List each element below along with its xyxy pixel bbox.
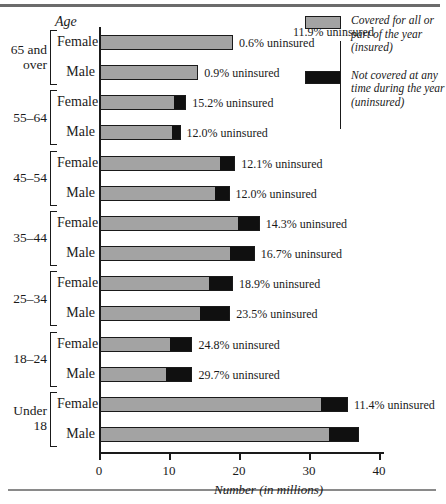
bar-segment-insured xyxy=(101,338,170,351)
bar-segment-insured xyxy=(101,36,232,49)
age-group-label: 35–44 xyxy=(0,230,47,245)
row-label-female: Female xyxy=(57,94,95,110)
bar-35–44-male xyxy=(100,246,255,261)
row-label-female: Female xyxy=(57,215,95,231)
bar-25–34-female xyxy=(100,276,233,291)
row-label-male: Male xyxy=(57,185,95,201)
row-label-male: Male xyxy=(57,64,95,80)
callout-label: 11.9% uninsured xyxy=(293,25,374,40)
bar-value-label: 12.1% uninsured xyxy=(241,157,322,172)
bar-value-label: 24.8% uninsured xyxy=(198,338,279,353)
age-group-bracket xyxy=(50,211,57,266)
bar-65-and-over-female xyxy=(100,35,233,50)
age-group-bracket xyxy=(50,271,57,326)
age-group-bracket xyxy=(50,392,57,447)
plot-area: 010203040 0.6% uninsured0.9% uninsured15… xyxy=(99,27,384,454)
bar-45–54-female xyxy=(100,156,235,171)
row-label-female: Female xyxy=(57,34,95,50)
bar-55–64-male xyxy=(100,125,181,140)
bar-segment-insured xyxy=(101,157,220,170)
insurance-coverage-bar-chart: Age Covered for all or part of the year … xyxy=(0,0,446,504)
row-label-male: Male xyxy=(57,426,95,442)
age-group-bracket xyxy=(50,332,57,387)
bar-segment-insured xyxy=(101,247,230,260)
row-label-female: Female xyxy=(57,336,95,352)
bar-segment-uninsured xyxy=(329,428,358,441)
bar-segment-uninsured xyxy=(321,398,347,411)
bar-segment-uninsured xyxy=(209,277,232,290)
bar-segment-insured xyxy=(101,368,166,381)
row-label-male: Male xyxy=(57,124,95,140)
row-label-male: Male xyxy=(57,366,95,382)
age-group-label-line2: over xyxy=(0,57,47,72)
x-tick-40 xyxy=(379,454,381,460)
row-label-female: Female xyxy=(57,155,95,171)
bar-segment-uninsured xyxy=(200,307,229,320)
y-axis-line xyxy=(99,27,101,454)
bar-segment-uninsured xyxy=(230,247,254,260)
age-group-label-line2: 18 xyxy=(0,418,47,433)
bar-segment-insured xyxy=(101,398,321,411)
x-tick-label-10: 10 xyxy=(163,463,176,479)
bar-segment-insured xyxy=(101,217,238,230)
bar-value-label: 16.7% uninsured xyxy=(261,247,342,262)
age-group-label: Under18 xyxy=(0,403,47,433)
age-group-bracket xyxy=(50,30,57,85)
bar-value-label: 12.0% uninsured xyxy=(187,126,268,141)
bar-value-label: 29.7% uninsured xyxy=(198,368,279,383)
x-tick-label-40: 40 xyxy=(373,463,386,479)
age-group-label: 45–54 xyxy=(0,170,47,185)
bar-value-label: 0.9% uninsured xyxy=(204,66,279,81)
bar-value-label: 14.3% uninsured xyxy=(266,217,347,232)
age-group-label: 65 andover xyxy=(0,42,47,72)
bar-Under-18-female xyxy=(100,397,348,412)
bar-segment-uninsured xyxy=(166,368,191,381)
x-tick-label-30: 30 xyxy=(303,463,316,479)
bar-segment-uninsured xyxy=(174,96,185,109)
bar-25–34-male xyxy=(100,306,230,321)
bar-value-label: 18.9% uninsured xyxy=(239,277,320,292)
age-group-label: 55–64 xyxy=(0,110,47,125)
x-tick-30 xyxy=(309,454,311,460)
bar-55–64-female xyxy=(100,95,186,110)
bar-segment-insured xyxy=(101,96,174,109)
bar-segment-insured xyxy=(101,307,200,320)
bar-18–24-female xyxy=(100,337,192,352)
bar-value-label: 23.5% uninsured xyxy=(236,307,317,322)
y-axis-title: Age xyxy=(55,14,77,30)
bar-segment-uninsured xyxy=(170,338,191,351)
x-tick-10 xyxy=(169,454,171,460)
callout-leader-line xyxy=(340,41,341,129)
bar-segment-uninsured xyxy=(238,217,259,230)
x-tick-0 xyxy=(99,454,101,460)
row-label-female: Female xyxy=(57,396,95,412)
bar-segment-insured xyxy=(101,187,215,200)
row-label-male: Male xyxy=(57,305,95,321)
bar-segment-uninsured xyxy=(220,157,234,170)
bar-segment-insured xyxy=(101,277,209,290)
bar-segment-insured xyxy=(101,428,329,441)
bar-35–44-female xyxy=(100,216,260,231)
age-group-bracket xyxy=(50,90,57,145)
bar-value-label: 11.4% uninsured xyxy=(354,398,435,413)
age-group-label: 25–34 xyxy=(0,291,47,306)
top-rule xyxy=(0,4,440,7)
x-axis-line xyxy=(99,452,384,454)
bar-value-label: 15.2% uninsured xyxy=(192,96,273,111)
bar-65-and-over-male xyxy=(100,65,198,80)
bar-segment-insured xyxy=(101,126,172,139)
row-label-female: Female xyxy=(57,275,95,291)
age-group-label: 18–24 xyxy=(0,351,47,366)
x-tick-label-20: 20 xyxy=(233,463,246,479)
bar-segment-uninsured xyxy=(172,126,180,139)
bar-value-label: 12.0% uninsured xyxy=(236,187,317,202)
x-tick-label-0: 0 xyxy=(96,463,103,479)
bar-18–24-male xyxy=(100,367,192,382)
row-label-male: Male xyxy=(57,245,95,261)
x-tick-20 xyxy=(239,454,241,460)
bar-Under-18-male xyxy=(100,427,359,442)
age-group-bracket xyxy=(50,151,57,206)
bar-segment-uninsured xyxy=(215,187,228,200)
bar-45–54-male xyxy=(100,186,230,201)
bar-segment-insured xyxy=(101,66,197,79)
